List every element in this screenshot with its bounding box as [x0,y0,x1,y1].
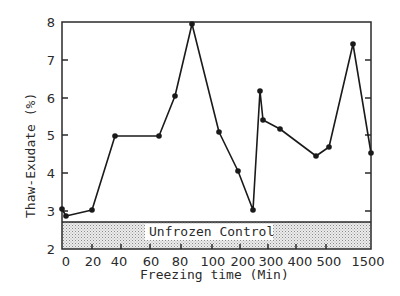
data-point [250,207,256,213]
y-tick-labels: 2 3 4 5 6 7 8 [47,15,55,257]
svg-text:500: 500 [317,254,342,269]
y-axis-title: Thaw-Exudate (%) [23,93,38,218]
data-point [326,144,332,150]
data-point [277,126,283,132]
data-point [112,133,118,139]
data-line [62,24,371,216]
data-point [172,93,178,99]
data-point [368,150,374,156]
data-point [156,133,162,139]
data-point [313,153,319,159]
data-point [235,168,241,174]
svg-text:20: 20 [85,254,102,269]
svg-text:8: 8 [47,15,55,30]
data-point [59,206,65,212]
chart: Unfrozen Control 2 3 4 5 6 7 8 [0,0,400,296]
svg-text:1500: 1500 [351,254,384,269]
svg-text:3: 3 [47,204,55,219]
data-point [89,207,95,213]
data-point [260,117,266,123]
svg-text:6: 6 [47,91,55,106]
data-point [216,129,222,135]
svg-text:7: 7 [47,53,55,68]
svg-text:40: 40 [111,254,128,269]
y-axis [62,60,371,211]
svg-text:400: 400 [288,254,313,269]
plot-frame [62,22,371,249]
svg-text:2: 2 [47,242,55,257]
x-axis-title: Freezing time (Min) [140,267,289,282]
data-point [257,88,263,94]
svg-text:0: 0 [62,254,70,269]
data-point [350,41,356,47]
data-point [189,21,195,27]
data-point [63,213,69,219]
svg-text:4: 4 [47,166,55,181]
svg-text:5: 5 [47,128,55,143]
band-label: Unfrozen Control [149,224,274,239]
